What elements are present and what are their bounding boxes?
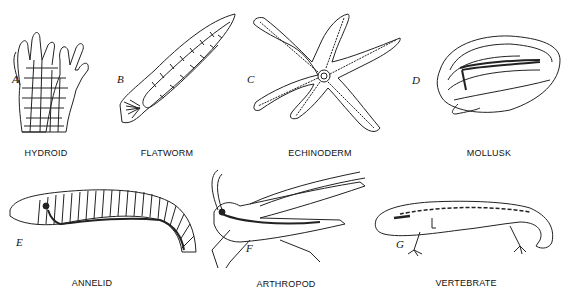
panel-caption: ANNELID bbox=[72, 278, 112, 288]
panel-letter: D bbox=[412, 74, 420, 86]
arthropod-illustration bbox=[200, 150, 370, 296]
panel-letter: E bbox=[16, 236, 23, 248]
panel-hydroid: A HYDROID bbox=[0, 0, 120, 150]
panel-arthropod: F ARTHROPOD bbox=[200, 150, 370, 296]
flatworm-illustration bbox=[110, 0, 240, 150]
panel-vertebrate: G VERTEBRATE bbox=[370, 150, 571, 296]
panel-letter: G bbox=[396, 238, 404, 250]
annelid-illustration bbox=[0, 150, 200, 296]
panel-flatworm: B FLATWORM bbox=[110, 0, 240, 150]
mollusk-illustration bbox=[400, 0, 571, 150]
panel-letter: C bbox=[247, 73, 254, 85]
panel-annelid: E ANNELID bbox=[0, 150, 200, 296]
panel-letter: A bbox=[12, 73, 19, 85]
panel-letter: B bbox=[117, 73, 124, 85]
vertebrate-illustration bbox=[370, 150, 571, 296]
panel-caption: VERTEBRATE bbox=[435, 278, 496, 288]
panel-letter: F bbox=[246, 242, 253, 254]
panel-caption: ARTHROPOD bbox=[256, 279, 315, 289]
panel-mollusk: D MOLLUSK bbox=[400, 0, 571, 150]
panel-echinoderm: C ECHINODERM bbox=[240, 0, 400, 150]
echinoderm-illustration bbox=[240, 0, 400, 150]
